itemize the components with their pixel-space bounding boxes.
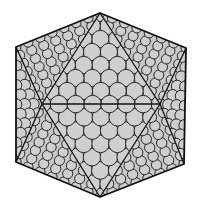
capsomere-circles: [10, 4, 192, 205]
capsid-figure: [0, 0, 200, 209]
icosahedron-diagram: [0, 0, 200, 209]
